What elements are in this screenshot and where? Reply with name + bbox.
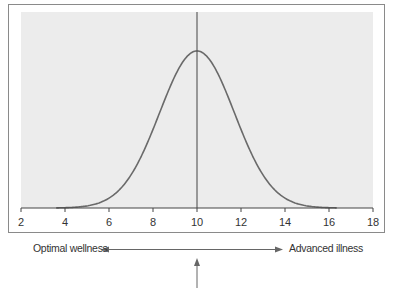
wellness-illness-arrow <box>101 247 283 253</box>
x-tick-label: 4 <box>62 216 68 228</box>
x-tick-label: 8 <box>150 216 156 228</box>
advanced-illness-label: Advanced illness <box>289 242 363 254</box>
x-tick-label: 16 <box>323 216 335 228</box>
x-tick-label: 6 <box>106 216 112 228</box>
x-axis-ticks: 24681012141618 <box>18 208 379 228</box>
x-tick-label: 18 <box>367 216 379 228</box>
pointer-up-arrow <box>194 258 200 288</box>
x-tick-label: 12 <box>235 216 247 228</box>
optimal-wellness-label: Optimal wellness <box>33 242 108 254</box>
x-tick-label: 10 <box>191 216 203 228</box>
x-tick-label: 2 <box>18 216 24 228</box>
x-tick-label: 14 <box>279 216 291 228</box>
